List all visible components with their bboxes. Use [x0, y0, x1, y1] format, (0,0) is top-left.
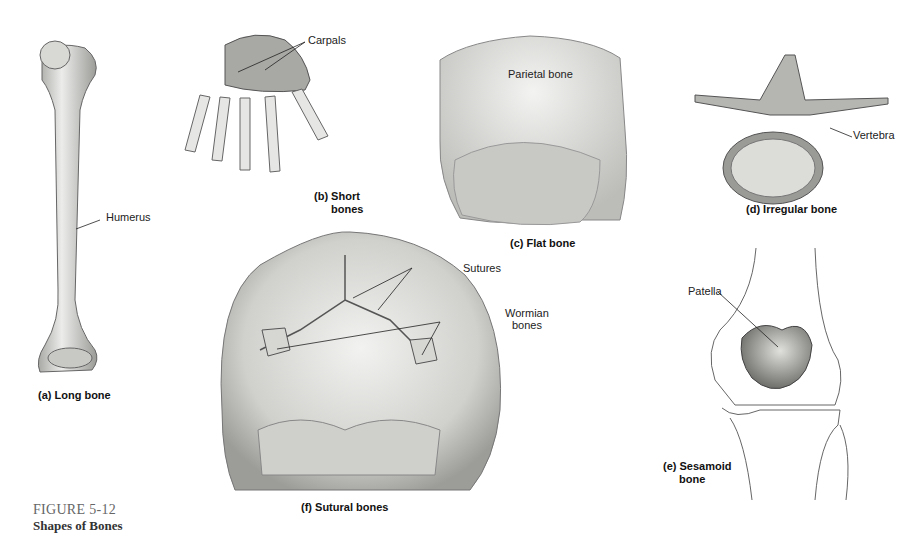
label-parietal-bone: Parietal bone	[508, 68, 573, 80]
label-wormian-bones: bones	[512, 319, 542, 331]
label-humerus: Humerus	[106, 211, 151, 223]
label-wormian: Wormian	[505, 307, 549, 319]
caption-irregular-bone: (d) Irregular bone	[746, 203, 837, 216]
hand-illustration	[185, 35, 328, 172]
label-patella: Patella	[688, 285, 722, 297]
caption-short-bones-line1: (b) Short	[314, 190, 360, 203]
figure-title: Shapes of Bones	[33, 518, 123, 534]
illustrations	[0, 0, 923, 542]
caption-flat-bone: (c) Flat bone	[510, 237, 575, 250]
caption-sesamoid-line2: bone	[679, 473, 705, 486]
caption-sutural-bones: (f) Sutural bones	[301, 501, 388, 514]
label-sutures: Sutures	[463, 262, 501, 274]
patella-shape	[741, 326, 812, 389]
parietal-illustration	[440, 36, 627, 225]
caption-sesamoid-line1: (e) Sesamoid	[663, 460, 731, 473]
label-vertebra: Vertebra	[853, 129, 895, 141]
label-carpals: Carpals	[308, 34, 346, 46]
caption-long-bone: (a) Long bone	[38, 389, 111, 402]
skull-illustration	[221, 232, 500, 490]
figure-number: FIGURE 5-12	[33, 502, 116, 518]
humerus-illustration	[38, 41, 100, 372]
caption-short-bones-line2: bones	[331, 203, 363, 216]
